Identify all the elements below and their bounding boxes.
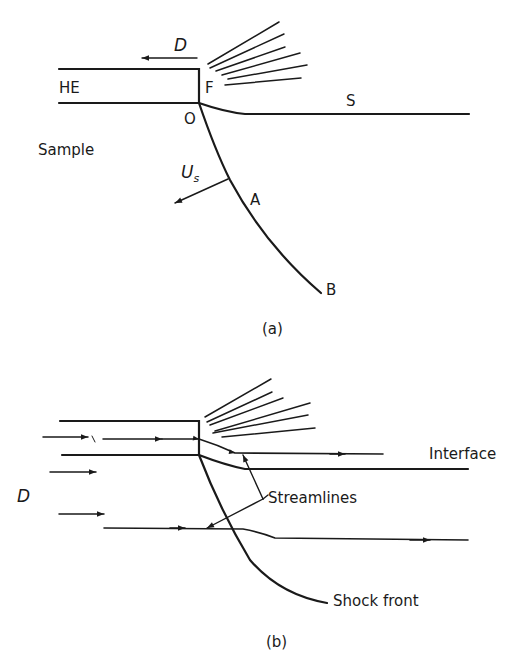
shock-velocity-symbol: U: [181, 162, 193, 182]
label-detonation-velocity-b: D: [17, 488, 30, 505]
interface-line: [199, 455, 468, 469]
he-top-boundary: [59, 69, 199, 103]
caption-b: (b): [266, 635, 287, 650]
label-point-b: B: [326, 283, 336, 298]
surface-line: [199, 103, 469, 114]
figure-b: [43, 379, 468, 603]
expansion-fan: [208, 22, 307, 85]
figure-canvas: D HE F O S Sample Us A B (a) D Interface…: [0, 0, 517, 669]
label-point-f: F: [205, 81, 214, 96]
label-point-a: A: [250, 193, 260, 208]
he-top-boundary: [60, 421, 199, 455]
label-shock-front: Shock front: [333, 594, 419, 609]
figure-a: [59, 22, 469, 293]
label-interface: Interface: [429, 447, 496, 462]
caption-a: (a): [262, 322, 283, 337]
streamlines-leaders: [207, 455, 268, 528]
streamline-lower: [104, 528, 468, 540]
diagram-drawing: [0, 0, 517, 669]
expansion-fan: [205, 379, 315, 437]
label-streamlines: Streamlines: [268, 491, 357, 506]
label-sample: Sample: [38, 143, 94, 158]
streamline-upper: [162, 439, 383, 454]
label-detonation-velocity-a: D: [174, 37, 187, 54]
label-surface: S: [346, 94, 356, 109]
shock-velocity-subscript: s: [193, 172, 199, 185]
label-point-o: O: [184, 112, 196, 127]
flow-arrows: [43, 436, 162, 514]
label-high-explosive: HE: [59, 81, 80, 96]
label-shock-velocity: Us: [181, 164, 199, 184]
